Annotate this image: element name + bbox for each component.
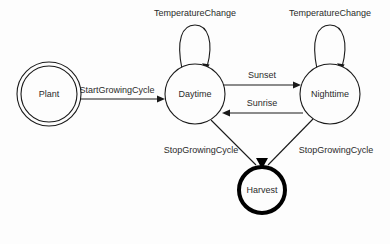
transition-stop-growing-cycle-daytime-label: StopGrowingCycle (164, 145, 239, 155)
state-node-harvest-label: Harvest (246, 185, 278, 195)
transition-stop-growing-cycle-daytime[interactable]: StopGrowingCycle (164, 120, 256, 165)
transition-temperature-change-nighttime[interactable]: TemperatureChange (289, 8, 371, 71)
transition-start-growing-cycle-arrowhead (157, 96, 165, 103)
state-node-plant[interactable]: Plant (17, 62, 81, 126)
state-node-daytime[interactable]: Daytime (165, 64, 225, 124)
state-node-harvest[interactable]: Harvest (239, 167, 285, 213)
state-node-nighttime-label: Nighttime (311, 89, 349, 99)
state-node-nighttime[interactable]: Nighttime (300, 64, 360, 124)
transition-temperature-change-nighttime-arc (315, 25, 345, 69)
transition-start-growing-cycle[interactable]: StartGrowingCycle (79, 85, 165, 102)
state-node-plant-label: Plant (39, 89, 60, 99)
transition-sunset[interactable]: Sunset (222, 70, 301, 88)
transition-temperature-change-daytime-label: TemperatureChange (154, 8, 236, 18)
transition-sunset-arrowhead (293, 82, 301, 89)
transition-sunrise[interactable]: Sunrise (222, 98, 303, 116)
transition-sunrise-arrowhead (222, 110, 230, 117)
transition-sunset-label: Sunset (248, 70, 277, 80)
state-diagram-canvas: StartGrowingCycle TemperatureChange Temp… (0, 0, 390, 244)
transition-stop-growing-cycle-nighttime-line (268, 119, 313, 165)
state-diagram: StartGrowingCycle TemperatureChange Temp… (0, 0, 390, 244)
transition-temperature-change-daytime-arc (180, 25, 210, 69)
transition-temperature-change-nighttime-label: TemperatureChange (289, 8, 371, 18)
transition-sunrise-label: Sunrise (247, 98, 278, 108)
state-node-daytime-label: Daytime (178, 89, 211, 99)
transition-temperature-change-daytime[interactable]: TemperatureChange (154, 8, 236, 71)
transition-stop-growing-cycle-daytime-line (211, 120, 256, 165)
transition-start-growing-cycle-label: StartGrowingCycle (79, 85, 154, 95)
transition-stop-growing-cycle-nighttime[interactable]: StopGrowingCycle (268, 119, 373, 165)
transition-stop-growing-cycle-nighttime-label: StopGrowingCycle (299, 145, 374, 155)
